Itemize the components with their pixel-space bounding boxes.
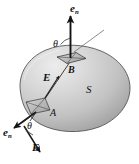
- angle-B-label: θ: [53, 39, 58, 49]
- angle-A-label: θ: [27, 121, 32, 131]
- surface-label: S: [86, 84, 92, 95]
- patch-B-label: B: [68, 65, 75, 75]
- angle-arc-B: [61, 38, 71, 45]
- normal-vector-A-label: en: [3, 127, 12, 139]
- patch-A-label: A: [50, 108, 56, 118]
- normal-vector-B-label: en: [70, 3, 79, 15]
- field-vector-A-label: E: [32, 142, 39, 153]
- field-vector-B-label: E: [43, 72, 50, 83]
- flux-diagram: [0, 0, 139, 164]
